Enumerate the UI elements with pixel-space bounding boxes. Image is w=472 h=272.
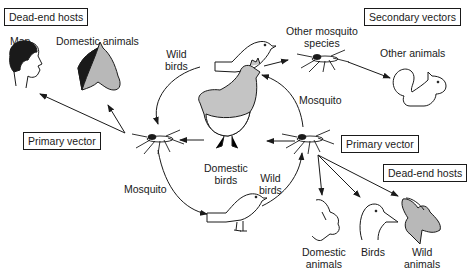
label-domestic-birds: Domestic birds: [204, 162, 248, 186]
mosquito-right-icon: [282, 130, 334, 154]
squirrel-icon: [393, 69, 446, 106]
man-head-icon: [10, 41, 42, 88]
label-domestic-animals-bottom: Domestic animals: [302, 246, 346, 270]
label-other-mosquito-species: Other mosquito species: [286, 25, 358, 49]
secondary-vectors-box: Secondary vectors: [364, 8, 461, 26]
label-man: Man: [10, 35, 30, 47]
label-domestic-animals-top: Domestic animals: [56, 35, 139, 47]
label-wild-birds-bottom: Wild birds: [259, 172, 282, 196]
primary-vector-box-right: Primary vector: [341, 135, 419, 153]
duck-head-icon: [360, 204, 398, 240]
mosquito-secondary-icon: [297, 50, 349, 72]
label-mosquito-left: Mosquito: [124, 183, 167, 195]
dead-end-hosts-box-right: Dead-end hosts: [383, 164, 467, 182]
label-wild-animals: Wild animals: [404, 246, 440, 270]
rabbit-head-icon: [402, 198, 440, 244]
dead-end-hosts-box-left: Dead-end hosts: [4, 8, 88, 26]
label-birds-bottom: Birds: [361, 246, 385, 258]
wild-bird-bottom-icon: [207, 194, 267, 231]
label-mosquito-right: Mosquito: [299, 94, 342, 106]
domestic-animal-bottom-icon: [312, 200, 339, 241]
horse-head-icon: [78, 42, 120, 90]
primary-vector-box-left: Primary vector: [23, 132, 101, 150]
label-wild-birds-top: Wild birds: [165, 48, 188, 72]
label-other-animals: Other animals: [380, 47, 445, 59]
